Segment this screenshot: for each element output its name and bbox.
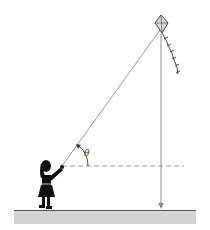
angle-label: θ — [84, 148, 90, 158]
arrow-down-icon — [158, 203, 164, 209]
angle-arrow-icon — [76, 144, 81, 149]
ground — [14, 210, 196, 224]
kite-diagram: θ — [0, 0, 210, 230]
girl — [38, 160, 64, 209]
kite — [155, 15, 168, 33]
kite-tail — [162, 33, 180, 74]
